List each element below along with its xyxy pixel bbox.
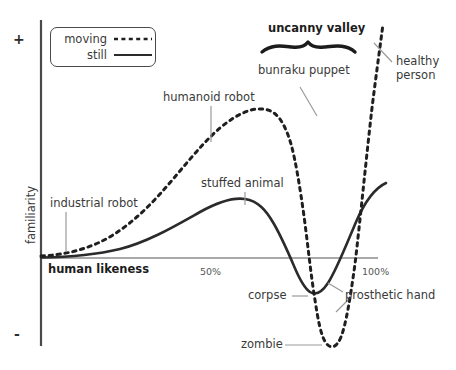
annotation-corpse: corpse (248, 289, 286, 302)
leader-bunraku-puppet (300, 87, 317, 116)
legend-item-moving[interactable]: moving (51, 30, 155, 47)
annotation-bunraku-puppet: bunraku puppet (258, 64, 350, 77)
annotation-prosthetic-hand: prosthetic hand (345, 289, 435, 302)
annotation-stuffed-animal: stuffed animal (201, 177, 284, 190)
annotation-industrial-robot: industrial robot (50, 197, 138, 210)
annotation-healthy-person-line2: person (396, 69, 435, 82)
legend-swatch-moving-dashed (112, 34, 155, 44)
legend-item-still[interactable]: still (51, 46, 155, 63)
annotation-humanoid-robot: humanoid robot (163, 91, 255, 104)
x-tick-50: 50% (200, 266, 221, 277)
leader-prosthetic-hand-1 (328, 283, 343, 292)
legend-swatch-still-solid (112, 50, 155, 60)
x-tick-100: 100% (362, 266, 389, 277)
legend-label-moving: moving (51, 32, 112, 46)
uncanny-valley-chart: + - familiarity human likeness 50% 100% … (0, 0, 456, 370)
uncanny-valley-brace (262, 42, 355, 52)
annotation-healthy-person-line1: healthy (396, 55, 439, 68)
annotation-zombie: zombie (241, 338, 283, 351)
y-axis-title: familiarity (24, 170, 38, 260)
legend-label-still: still (51, 48, 112, 62)
y-axis-plus-sign: + (13, 31, 25, 47)
y-axis-minus-sign: - (14, 326, 20, 342)
annotation-uncanny-valley: uncanny valley (268, 22, 365, 35)
x-axis-title: human likeness (48, 263, 149, 276)
leader-healthy-person (374, 43, 392, 62)
legend[interactable]: moving still (50, 27, 156, 67)
